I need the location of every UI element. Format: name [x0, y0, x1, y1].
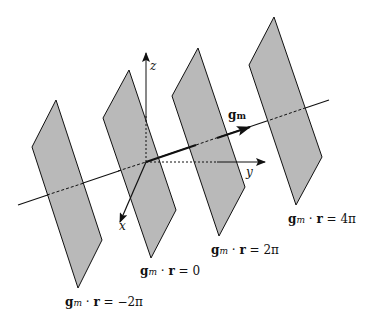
label-sub: m [219, 246, 228, 256]
plane-2pi [172, 48, 245, 236]
plane-minus-2pi [32, 100, 102, 288]
label-sub: m [296, 215, 305, 225]
plane-label-4pi: gm · r = 4π [288, 213, 356, 225]
label-rhs: = 0 [175, 264, 200, 278]
label-dot: · [82, 295, 93, 309]
label-dot: · [157, 264, 168, 278]
label-rhs: = 4π [323, 212, 356, 226]
label-dot: · [305, 212, 316, 226]
plane-label-minus-2pi: gm · r = −2π [65, 296, 143, 308]
label-dot: · [228, 243, 239, 257]
x-axis-label: x [119, 220, 126, 232]
plane-label-2pi: gm · r = 2π [211, 244, 279, 256]
y-axis-label: y [246, 166, 253, 178]
plane-4pi [249, 17, 322, 205]
gm-vector-label: gm [228, 109, 246, 121]
gm-label-sub: m [236, 111, 246, 121]
label-sub: m [148, 267, 157, 277]
label-rhs: = 2π [246, 243, 279, 257]
lattice-planes-diagram: z y x gm gm · r = −2π gm · r = 0 gm · r … [0, 0, 365, 320]
z-axis-label: z [150, 60, 156, 72]
label-rhs: = −2π [100, 295, 143, 309]
label-sub: m [73, 298, 82, 308]
plane-label-0: gm · r = 0 [140, 265, 200, 277]
